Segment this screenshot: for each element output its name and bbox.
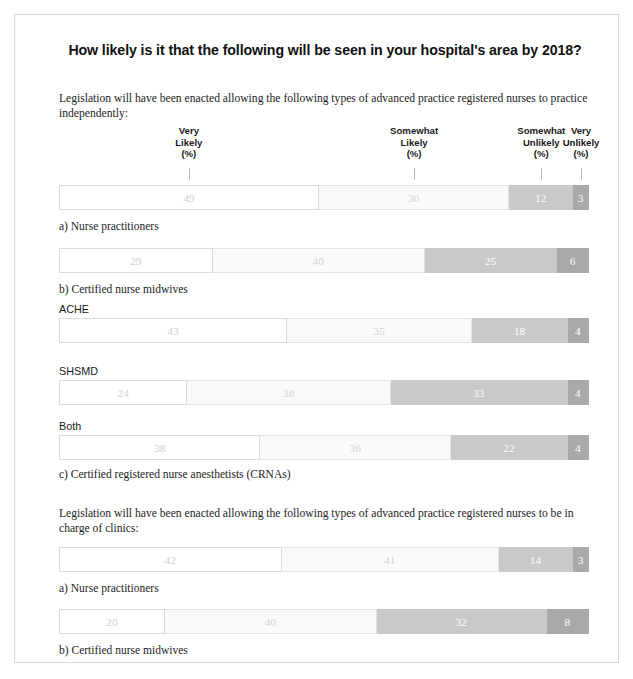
bar-segment-very-unlikely: 4 [568, 318, 589, 343]
bar-segment-value: 36 [350, 442, 361, 454]
caption-cnm-independent: b) Certified nurse midwives [59, 283, 188, 295]
bar-segment-value: 3 [578, 192, 584, 204]
header-line: (%) [144, 148, 234, 160]
bar-segment-very-unlikely: 3 [573, 547, 589, 572]
header-line: (%) [536, 148, 626, 160]
bar-segment-very-likely: 24 [59, 380, 187, 405]
bar-segment-somewhat-likely: 40 [165, 609, 377, 634]
bar-segment-value: 12 [535, 192, 546, 204]
bar-segment-value: 6 [570, 255, 576, 267]
bar-segment-value: 29 [130, 255, 141, 267]
bar-segment-value: 4 [575, 387, 581, 399]
header-line: Unlikely [536, 137, 626, 149]
bar-segment-value: 3 [578, 554, 584, 566]
bar-segment-value: 20 [106, 616, 117, 628]
header-very-unlikely: Very Unlikely (%) [536, 125, 626, 160]
bar-segment-value: 4 [575, 442, 581, 454]
header-line: Likely [144, 137, 234, 149]
header-very-likely: Very Likely (%) [144, 125, 234, 160]
bar-segment-somewhat-likely: 36 [319, 185, 510, 210]
bar-segment-value: 49 [183, 192, 194, 204]
group-label-ache: ACHE [59, 303, 89, 315]
bar-segment-somewhat-likely: 36 [260, 435, 451, 460]
bar-segment-somewhat-likely: 40 [213, 248, 425, 273]
tick-very-likely [189, 168, 190, 180]
section-1-intro: Legislation will have been enacted allow… [59, 91, 589, 122]
bar-segment-value: 38 [154, 442, 165, 454]
bar-segment-very-likely: 49 [59, 185, 319, 210]
caption-cnm-clinics: b) Certified nurse midwives [59, 644, 188, 656]
bar-segment-value: 33 [473, 387, 484, 399]
bar-segment-very-likely: 20 [59, 609, 165, 634]
header-line: Likely [369, 137, 459, 149]
bar-segment-value: 14 [530, 554, 541, 566]
bar-segment-very-unlikely: 3 [573, 185, 589, 210]
caption-np-independent: a) Nurse practitioners [59, 220, 159, 232]
tick-somewhat-likely [414, 168, 415, 180]
bar-segment-value: 38 [283, 387, 294, 399]
bar-segment-somewhat-likely: 38 [187, 380, 390, 405]
caption-np-clinics: a) Nurse practitioners [59, 582, 159, 594]
bar-segment-somewhat-unlikely: 14 [499, 547, 573, 572]
bar-np-clinics: 4241143 [59, 547, 589, 572]
bar-segment-value: 4 [575, 325, 581, 337]
header-line: Somewhat [369, 125, 459, 137]
header-somewhat-likely: Somewhat Likely (%) [369, 125, 459, 160]
bar-segment-somewhat-unlikely: 12 [509, 185, 573, 210]
header-line: Very [536, 125, 626, 137]
bar-segment-very-unlikely: 4 [568, 380, 589, 405]
bar-segment-value: 22 [503, 442, 514, 454]
caption-crna: c) Certified registered nurse anesthetis… [59, 468, 291, 480]
column-headers: Very Likely (%) Somewhat Likely (%) Some… [59, 125, 591, 175]
bar-segment-value: 25 [485, 255, 496, 267]
bar-segment-value: 24 [118, 387, 129, 399]
bar-segment-very-likely: 42 [59, 547, 282, 572]
bar-crna-shsmd: 2438334 [59, 380, 589, 405]
bar-segment-value: 35 [373, 325, 384, 337]
bar-crna-both: 3836224 [59, 435, 589, 460]
header-line: (%) [369, 148, 459, 160]
bar-segment-value: 36 [408, 192, 419, 204]
bar-segment-very-unlikely: 4 [568, 435, 589, 460]
group-label-shsmd: SHSMD [59, 365, 98, 377]
bar-segment-value: 42 [165, 554, 176, 566]
bar-segment-very-likely: 43 [59, 318, 287, 343]
bar-segment-value: 43 [167, 325, 178, 337]
bar-segment-somewhat-unlikely: 18 [472, 318, 567, 343]
bar-segment-value: 32 [456, 616, 467, 628]
bar-segment-value: 40 [265, 616, 276, 628]
bar-segment-somewhat-likely: 35 [287, 318, 473, 343]
page-title: How likely is it that the following will… [59, 42, 591, 58]
bar-segment-very-unlikely: 8 [547, 609, 589, 634]
report-page: How likely is it that the following will… [14, 14, 619, 663]
bar-segment-very-likely: 29 [59, 248, 213, 273]
content-area: How likely is it that the following will… [59, 15, 591, 662]
bar-segment-value: 18 [514, 325, 525, 337]
tick-somewhat-unlikely [541, 168, 542, 180]
bar-segment-value: 8 [564, 616, 570, 628]
bar-segment-somewhat-unlikely: 25 [425, 248, 558, 273]
bar-cnm-clinics: 2040328 [59, 609, 589, 634]
bar-segment-somewhat-unlikely: 32 [377, 609, 547, 634]
bar-np-independent: 4936123 [59, 185, 589, 210]
bar-cnm-independent: 2940256 [59, 248, 589, 273]
header-line: Very [144, 125, 234, 137]
bar-segment-somewhat-likely: 41 [282, 547, 499, 572]
group-label-both: Both [59, 420, 81, 432]
bar-crna-ache: 4335184 [59, 318, 589, 343]
bar-segment-very-unlikely: 6 [557, 248, 589, 273]
section-2-intro: Legislation will have been enacted allow… [59, 506, 589, 537]
bar-segment-somewhat-unlikely: 22 [451, 435, 568, 460]
tick-very-unlikely [581, 168, 582, 180]
bar-segment-somewhat-unlikely: 33 [391, 380, 568, 405]
bar-segment-value: 40 [312, 255, 323, 267]
bar-segment-value: 41 [384, 554, 395, 566]
bar-segment-very-likely: 38 [59, 435, 260, 460]
